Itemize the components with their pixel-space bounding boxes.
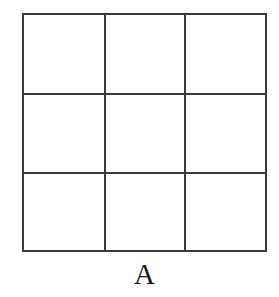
grid-cell-r2c1[interactable]	[22, 94, 105, 173]
grid-cell-r2c2[interactable]	[105, 94, 185, 173]
grid-cell-r1c2[interactable]	[105, 13, 185, 94]
grid-cell-r3c1[interactable]	[22, 173, 105, 252]
grid-canvas	[22, 13, 267, 252]
figure-panel: A	[0, 0, 279, 297]
grid-cell-r1c3[interactable]	[185, 13, 267, 94]
grid-3x3	[22, 13, 267, 252]
figure-caption: A	[0, 258, 279, 290]
grid-cell-r1c1[interactable]	[22, 13, 105, 94]
grid-cell-r2c3[interactable]	[185, 94, 267, 173]
grid-cell-r3c2[interactable]	[105, 173, 185, 252]
grid-cell-r3c3[interactable]	[185, 173, 267, 252]
